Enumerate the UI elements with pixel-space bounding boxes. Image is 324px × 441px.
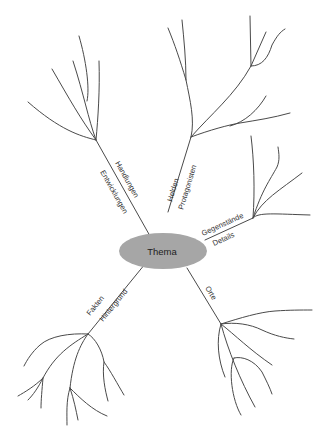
mind-map-diagram: Thema Handlungen Entwicklungen Helden Pr… — [0, 0, 324, 441]
label-protagonisten: Protagonisten — [176, 164, 198, 211]
branch-line — [96, 140, 150, 236]
branch-line — [191, 113, 290, 137]
label-hintergrund: Hintergrund — [98, 287, 130, 323]
branch-line — [28, 102, 96, 140]
branch-line — [70, 388, 107, 416]
branch-line — [191, 66, 251, 137]
branch-line — [41, 378, 43, 408]
branch-line — [103, 362, 108, 401]
branch-line — [70, 334, 88, 388]
branch-line — [18, 378, 43, 396]
branch-line — [70, 388, 78, 420]
branch-line — [221, 323, 294, 339]
branch-line — [73, 61, 96, 140]
branch-line — [79, 36, 88, 101]
branch-line — [28, 378, 43, 400]
branch-line — [251, 136, 254, 218]
branch-fakten — [18, 264, 145, 425]
branch-handlungen — [28, 36, 150, 236]
branch-line — [43, 334, 88, 378]
branch-line — [168, 28, 192, 137]
branch-line — [67, 388, 70, 425]
center-node: Thema — [119, 233, 207, 269]
branch-line — [24, 334, 88, 366]
branch-line — [253, 214, 310, 218]
branch-line — [253, 173, 302, 218]
branch-line — [218, 324, 225, 377]
branch-line — [52, 69, 96, 140]
branch-line — [88, 334, 124, 395]
branch-line — [250, 16, 251, 66]
branch-line — [221, 324, 255, 407]
branch-line — [253, 147, 279, 218]
branch-line — [96, 61, 99, 140]
branch-line — [182, 20, 186, 80]
branch-line — [251, 29, 285, 66]
center-label: Thema — [147, 246, 177, 257]
branch-line — [221, 310, 312, 324]
branch-line — [231, 358, 241, 415]
